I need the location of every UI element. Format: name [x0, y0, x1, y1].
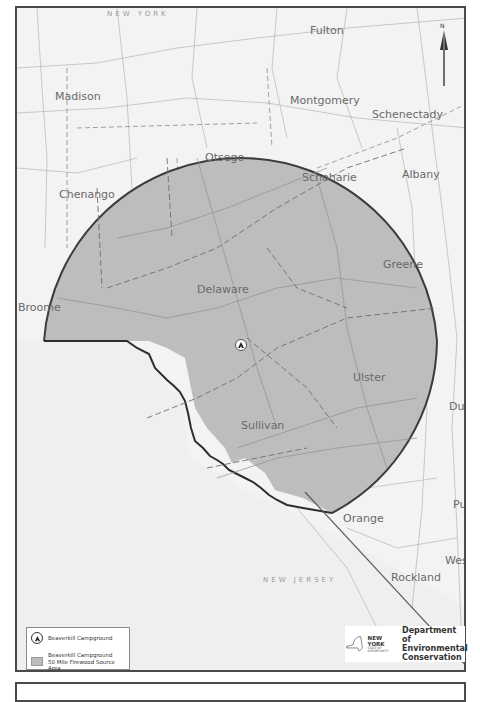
county-label-broome: Broome [18, 301, 61, 314]
county-label-madison: Madison [55, 90, 101, 103]
dec-dept-line1: Department of [402, 626, 468, 644]
state-label-new-york: NEW YORK [107, 10, 169, 18]
county-label-dutchess: Dutc [449, 400, 466, 413]
county-label-schoharie: Schoharie [302, 171, 357, 184]
ny-state-name: NEW YORK [368, 635, 394, 647]
map-frame: NEW YORK NEW JERSEY Madison Fulton Montg… [15, 6, 466, 672]
ny-state-outline-icon [345, 633, 366, 655]
county-label-putnam: Putr [453, 498, 466, 511]
source-area-swatch [31, 657, 43, 666]
north-label: N [440, 22, 445, 29]
county-label-delaware: Delaware [197, 283, 249, 296]
campground-icon [31, 632, 43, 644]
legend-item-campground: Beaverkill Campground [31, 632, 112, 644]
campground-marker[interactable] [235, 339, 247, 351]
county-label-schenectady: Schenectady [372, 108, 443, 121]
county-label-fulton: Fulton [310, 24, 344, 37]
county-label-rockland: Rockland [391, 571, 441, 584]
dec-dept-line3: Conservation [402, 653, 468, 662]
county-label-ulster: Ulster [353, 371, 385, 384]
county-label-albany: Albany [402, 168, 440, 181]
ny-state-logo: NEW YORK STATE OF OPPORTUNITY [345, 633, 394, 655]
dec-dept-line2: Environmental [402, 644, 468, 653]
campground-icon [237, 341, 245, 349]
county-label-sullivan: Sullivan [241, 419, 284, 432]
county-label-otsego: Otsego [205, 151, 244, 164]
legend-item-source-area: Beaverkill Campground 50 Mile Firewood S… [31, 652, 129, 672]
legend-label-source-area: Beaverkill Campground 50 Mile Firewood S… [48, 652, 129, 672]
county-label-westchester: Westc [445, 554, 466, 567]
map-legend: Beaverkill Campground Beaverkill Campgro… [26, 627, 130, 670]
legend-label-campground: Beaverkill Campground [48, 635, 112, 642]
county-label-montgomery: Montgomery [290, 94, 360, 107]
county-label-chenango: Chenango [59, 188, 115, 201]
north-arrow-icon [437, 30, 451, 86]
north-arrow: N [437, 22, 451, 82]
legend-label-source-area-line2: 50 Mile Firewood Source Area [48, 659, 129, 672]
bottom-panel [15, 682, 466, 702]
state-label-new-jersey: NEW JERSEY [263, 576, 336, 584]
ny-tagline-2: OPPORTUNITY [368, 650, 394, 654]
dec-logo: NEW YORK STATE OF OPPORTUNITY Department… [345, 626, 465, 662]
county-label-orange: Orange [343, 512, 384, 525]
county-label-greene: Greene [383, 258, 423, 271]
